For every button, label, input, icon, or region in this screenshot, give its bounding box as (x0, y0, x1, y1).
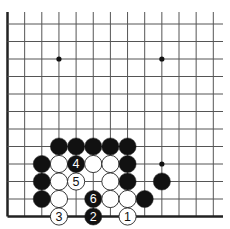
move-number-label: 5 (73, 175, 80, 189)
white-stone-disc (50, 190, 67, 207)
black-stone-disc (68, 138, 85, 155)
white-stone-disc (119, 190, 136, 207)
black-stone (33, 190, 50, 207)
white-stone (102, 173, 119, 190)
black-stone (68, 138, 85, 155)
black-stone: 2 (85, 208, 102, 225)
white-stone: 1 (119, 208, 136, 225)
white-stone (102, 155, 119, 172)
white-stone-disc (102, 190, 119, 207)
black-stone-disc (33, 173, 50, 190)
black-stone-disc (119, 173, 136, 190)
star-point-icon (56, 56, 61, 61)
star-point-icon (159, 161, 164, 166)
black-stone-disc (50, 138, 67, 155)
black-stone-disc (153, 173, 170, 190)
black-stone: 6 (85, 190, 102, 207)
black-stone-disc (85, 138, 102, 155)
white-stone-disc (85, 155, 102, 172)
go-board: 456321 (0, 0, 230, 229)
black-stone-disc (119, 138, 136, 155)
black-stone (119, 138, 136, 155)
white-stone: 5 (68, 173, 85, 190)
white-stone-disc (50, 155, 67, 172)
black-stone (85, 138, 102, 155)
white-stone (50, 155, 67, 172)
white-stone (119, 190, 136, 207)
black-stone-disc (33, 190, 50, 207)
black-stone (50, 138, 67, 155)
white-stone: 3 (50, 208, 67, 225)
black-stone (33, 155, 50, 172)
white-stone (50, 190, 67, 207)
black-stone: 4 (68, 155, 85, 172)
black-stone-disc (102, 138, 119, 155)
move-number-label: 6 (90, 192, 97, 206)
white-stone (102, 190, 119, 207)
move-number-label: 2 (90, 210, 97, 224)
white-stone (50, 173, 67, 190)
white-stone (85, 155, 102, 172)
black-stone (119, 155, 136, 172)
move-number-label: 4 (73, 157, 80, 171)
star-point-icon (159, 56, 164, 61)
black-stone (136, 190, 153, 207)
black-stone-disc (119, 155, 136, 172)
black-stone-disc (136, 190, 153, 207)
black-stone (153, 173, 170, 190)
move-number-label: 3 (55, 210, 62, 224)
move-number-label: 1 (124, 210, 131, 224)
black-stone (102, 138, 119, 155)
black-stone (119, 173, 136, 190)
white-stone-disc (50, 173, 67, 190)
white-stone-disc (102, 155, 119, 172)
white-stone-disc (102, 173, 119, 190)
black-stone (33, 173, 50, 190)
black-stone-disc (33, 155, 50, 172)
